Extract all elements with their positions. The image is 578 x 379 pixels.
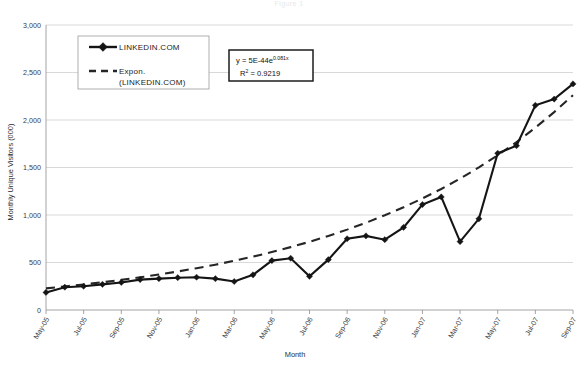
y-tick-label: 2,500 (23, 68, 41, 77)
y-tick-label: 1,000 (23, 211, 41, 220)
x-tick-label: Jul-06 (297, 315, 315, 336)
x-tick-label: Nov-06 (371, 315, 390, 340)
x-tick-label: Jan-06 (183, 316, 202, 340)
y-tick-label: 2,000 (23, 116, 41, 125)
y-axis-title-text: Monthly Unique Visitors (000) (6, 124, 15, 221)
data-point-marker (175, 275, 181, 281)
x-tick-label: Sep-07 (559, 316, 578, 341)
data-point-marker (193, 274, 199, 280)
x-tick-label: Mar-06 (220, 316, 239, 340)
x-tick-label: Jul-05 (71, 315, 89, 336)
x-tick-label: May-07 (483, 315, 503, 340)
y-axis-ticks: 05001,0001,5002,0002,5003,000 (23, 21, 41, 315)
data-point-marker (156, 276, 162, 282)
data-point-marker (43, 289, 49, 295)
legend-label-trend: Expon. (119, 67, 145, 76)
y-axis-title: Monthly Unique Visitors (000) (6, 124, 15, 221)
legend-label-series: LINKEDIN.COM (119, 43, 180, 52)
line-chart: 05001,0001,5002,0002,5003,000 May-05Jul-… (0, 0, 578, 379)
exponential-trendline (46, 95, 573, 288)
data-point-marker (363, 233, 369, 239)
data-point-marker (495, 150, 501, 156)
y-tick-label: 1,500 (23, 163, 41, 172)
x-tick-label: Jan-07 (409, 316, 428, 340)
x-tick-label: Nov-05 (145, 315, 164, 340)
y-tick-label: 3,000 (23, 21, 41, 30)
x-axis-title-text: Month (285, 350, 306, 359)
trendline-equation-box: y = 5E-44e0.081x R2 = 0.9219 (229, 50, 313, 81)
x-tick-label: May-06 (257, 315, 277, 340)
x-tick-label: Jul-07 (523, 315, 541, 336)
equation-exponent: 0.081x (273, 55, 289, 61)
data-point-marker (62, 284, 68, 290)
legend-label-trend-2: (LINKEDIN.COM) (119, 78, 186, 87)
equation-prefix: y = 5E-44e (236, 56, 273, 65)
chart-legend[interactable]: LINKEDIN.COM Expon. (LINKEDIN.COM) (78, 36, 209, 89)
data-point-marker (532, 102, 538, 108)
x-tick-label: Sep-05 (107, 316, 126, 341)
data-point-marker (99, 281, 105, 287)
y-tick-label: 500 (29, 258, 41, 267)
data-point-marker (212, 276, 218, 282)
x-tick-label: Sep-06 (333, 316, 352, 341)
data-point-marker (438, 194, 444, 200)
linkedin-series-line (46, 84, 573, 293)
x-tick-label: May-05 (31, 315, 51, 340)
data-point-marker (231, 278, 237, 284)
y-tick-label: 0 (37, 306, 41, 315)
chart-container: Figure 1 05001,0001,5002,0002,5003,000 M… (0, 0, 578, 379)
x-axis-ticks: May-05Jul-05Sep-05Nov-05Jan-06Mar-06May-… (31, 310, 578, 341)
data-point-markers (43, 81, 576, 296)
r2-value: = 0.9219 (248, 69, 280, 78)
x-tick-label: Mar-07 (446, 316, 465, 340)
